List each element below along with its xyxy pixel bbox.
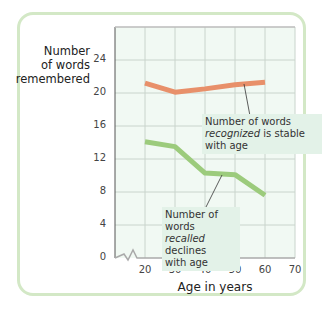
annotation-text: Number of words: [165, 209, 218, 232]
annotation-recognized: Number of words recognized is stable wit…: [202, 114, 322, 154]
x-axis-label: Age in years: [155, 280, 275, 294]
annotation-text: is stable: [260, 128, 305, 139]
annotation-text: Number of words: [205, 116, 291, 127]
annotation-emphasis: recalled: [165, 233, 205, 244]
annotation-text: declines: [165, 245, 206, 256]
annotation-text: with age: [165, 257, 208, 268]
annotation-recalled: Number of words recalled declines with a…: [162, 207, 240, 271]
annotation-text: with age: [205, 140, 248, 151]
annotation-emphasis: recognized: [205, 128, 260, 139]
